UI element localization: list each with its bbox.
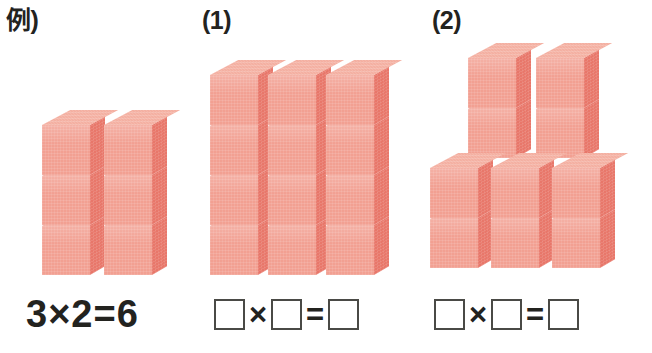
cube-side-face (374, 116, 389, 175)
cube-stack (42, 125, 90, 275)
answer-box-2-multiplicand[interactable] (434, 299, 465, 330)
cube (268, 75, 316, 125)
answer-box-1-multiplicand[interactable] (214, 299, 245, 330)
cube-front-face (268, 175, 316, 225)
cube-stack (552, 168, 600, 268)
problem-label-example: 例) (6, 8, 38, 33)
cube-front-face (468, 58, 516, 108)
cube-stack (268, 75, 316, 275)
cube-front-face (326, 225, 374, 275)
problem-label-1: (1) (202, 8, 231, 33)
cube-side-face (600, 209, 615, 268)
block-group-example (42, 125, 152, 275)
cube (104, 225, 152, 275)
cube (210, 225, 258, 275)
cube-side-face (374, 216, 389, 275)
problem-example: 例) 3×2=6 (0, 0, 200, 353)
cube-stack (430, 168, 478, 268)
cube-side-face (90, 166, 105, 225)
cube-stack (104, 125, 152, 275)
cube-stack (326, 75, 374, 275)
cube-front-face (491, 168, 539, 218)
cube (42, 125, 90, 175)
cube-stack (210, 75, 258, 275)
cube (536, 108, 584, 158)
cube-front-face (430, 168, 478, 218)
cube-front-face (104, 125, 152, 175)
cube (326, 225, 374, 275)
cube-front-face (536, 108, 584, 158)
cube-side-face (152, 116, 167, 175)
cube (468, 58, 516, 108)
cube-stack (536, 58, 584, 158)
cube (268, 175, 316, 225)
cube-front-face (210, 75, 258, 125)
cube-front-face (268, 225, 316, 275)
worksheet: 例) 3×2=6 (1) × = (2) × = (0, 0, 652, 353)
cube-front-face (42, 175, 90, 225)
cube-top-face (468, 43, 544, 58)
cube-stack (468, 58, 516, 158)
cube-front-face (326, 125, 374, 175)
cube-side-face (584, 99, 599, 158)
cube-front-face (491, 218, 539, 268)
cube (491, 168, 539, 218)
cube-side-face (152, 216, 167, 275)
cube (210, 125, 258, 175)
cube-side-face (152, 166, 167, 225)
cube-stack (491, 168, 539, 268)
cube (552, 218, 600, 268)
cube-front-face (552, 168, 600, 218)
cube (468, 108, 516, 158)
cube-side-face (374, 166, 389, 225)
cube-front-face (104, 175, 152, 225)
problem-1: (1) × = (196, 0, 416, 353)
equation-example: 3×2=6 (26, 293, 139, 335)
cube-front-face (210, 225, 258, 275)
equation-1: × = (214, 293, 359, 335)
cube (430, 218, 478, 268)
cube-front-face (326, 175, 374, 225)
cube-front-face (326, 75, 374, 125)
cube (326, 75, 374, 125)
block-group-2-top (468, 58, 584, 158)
cube (104, 125, 152, 175)
cube-side-face (374, 66, 389, 125)
cube (430, 168, 478, 218)
cube-front-face (42, 225, 90, 275)
cube (42, 175, 90, 225)
answer-box-2-product[interactable] (548, 299, 579, 330)
cube (268, 125, 316, 175)
equals-symbol-2: = (522, 299, 548, 330)
times-symbol-1: × (245, 299, 271, 330)
cube-front-face (268, 125, 316, 175)
cube (104, 175, 152, 225)
cube-top-face (536, 43, 612, 58)
cube (552, 168, 600, 218)
answer-box-1-multiplier[interactable] (271, 299, 302, 330)
cube-side-face (584, 49, 599, 108)
equals-symbol-1: = (302, 299, 328, 330)
cube-side-face (516, 49, 531, 108)
cube-front-face (210, 175, 258, 225)
answer-box-2-multiplier[interactable] (491, 299, 522, 330)
cube-front-face (104, 225, 152, 275)
block-group-1 (210, 75, 374, 275)
cube-side-face (600, 159, 615, 218)
cube-front-face (210, 125, 258, 175)
cube-front-face (268, 75, 316, 125)
cube-front-face (430, 218, 478, 268)
cube (491, 218, 539, 268)
equation-2: × = (434, 293, 579, 335)
cube (536, 58, 584, 108)
cube (210, 175, 258, 225)
cube-side-face (90, 116, 105, 175)
cube-side-face (516, 99, 531, 158)
answer-box-1-product[interactable] (328, 299, 359, 330)
cube-front-face (468, 108, 516, 158)
cube (326, 125, 374, 175)
cube-front-face (552, 218, 600, 268)
cube-front-face (536, 58, 584, 108)
problem-label-2: (2) (432, 8, 461, 33)
cube (268, 225, 316, 275)
